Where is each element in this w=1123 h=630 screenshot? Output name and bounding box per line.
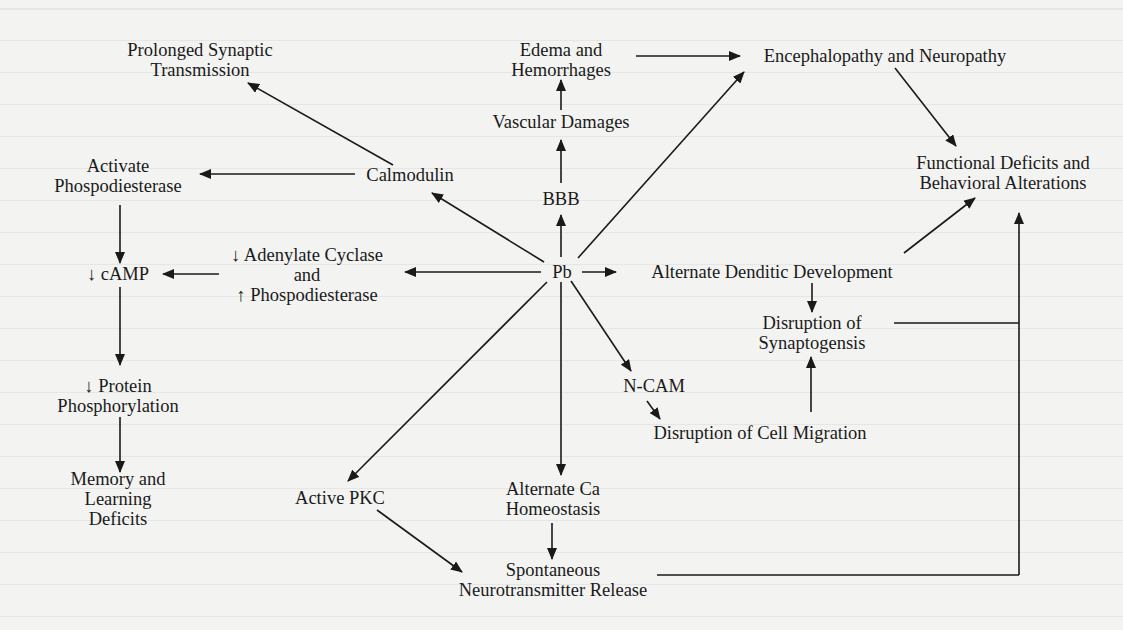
node-active-pkc: Active PKC bbox=[295, 488, 385, 508]
edge-pb-pkc bbox=[348, 282, 547, 481]
edge-ncam-cellmigration bbox=[647, 401, 660, 419]
node-alternate-ca-homeostasis: Alternate Ca Homeostasis bbox=[506, 479, 601, 519]
edge-calmodulin-prolonged bbox=[248, 83, 393, 165]
node-prolonged-synaptic-transmission: Prolonged Synaptic Transmission bbox=[127, 40, 272, 80]
node-edema-hemorrhages: Edema and Hemorrhages bbox=[511, 40, 611, 80]
edge-pb-enceph bbox=[578, 72, 744, 258]
edge-pb-ncam bbox=[571, 281, 631, 371]
edge-pkc-spontaneous bbox=[377, 510, 462, 572]
edge-enceph-functional bbox=[895, 68, 956, 146]
node-camp: ↓ cAMP bbox=[87, 264, 149, 284]
node-disruption-synaptogenesis: Disruption of Synaptogensis bbox=[759, 313, 866, 353]
node-disruption-cell-migration: Disruption of Cell Migration bbox=[653, 423, 866, 443]
edge-dendritic-functional bbox=[904, 198, 975, 253]
node-activate-phosphodiesterase: Activate Phospodiesterase bbox=[54, 156, 181, 196]
diagram-canvas: Prolonged Synaptic Transmission Edema an… bbox=[0, 0, 1123, 630]
node-adenylate-cyclase: ↓ Adenylate Cyclase and ↑ Phospodiestera… bbox=[231, 245, 383, 305]
node-spontaneous-neurotransmitter-release: Spontaneous Neurotransmitter Release bbox=[459, 560, 648, 600]
node-encephalopathy-neuropathy: Encephalopathy and Neuropathy bbox=[764, 46, 1006, 66]
node-pb: Pb bbox=[552, 262, 572, 282]
edges-layer bbox=[0, 0, 1123, 630]
node-bbb: BBB bbox=[542, 189, 579, 209]
node-calmodulin: Calmodulin bbox=[366, 165, 453, 185]
node-alternate-dendritic-development: Alternate Denditic Development bbox=[651, 262, 892, 282]
node-memory-learning-deficits: Memory and Learning Deficits bbox=[70, 469, 165, 529]
node-functional-deficits: Functional Deficits and Behavioral Alter… bbox=[916, 153, 1090, 193]
edge-pb-calmodulin bbox=[432, 193, 544, 262]
node-vascular-damages: Vascular Damages bbox=[492, 112, 629, 132]
node-protein-phosphorylation: ↓ Protein Phosphorylation bbox=[57, 376, 178, 416]
node-ncam: N-CAM bbox=[623, 376, 685, 396]
